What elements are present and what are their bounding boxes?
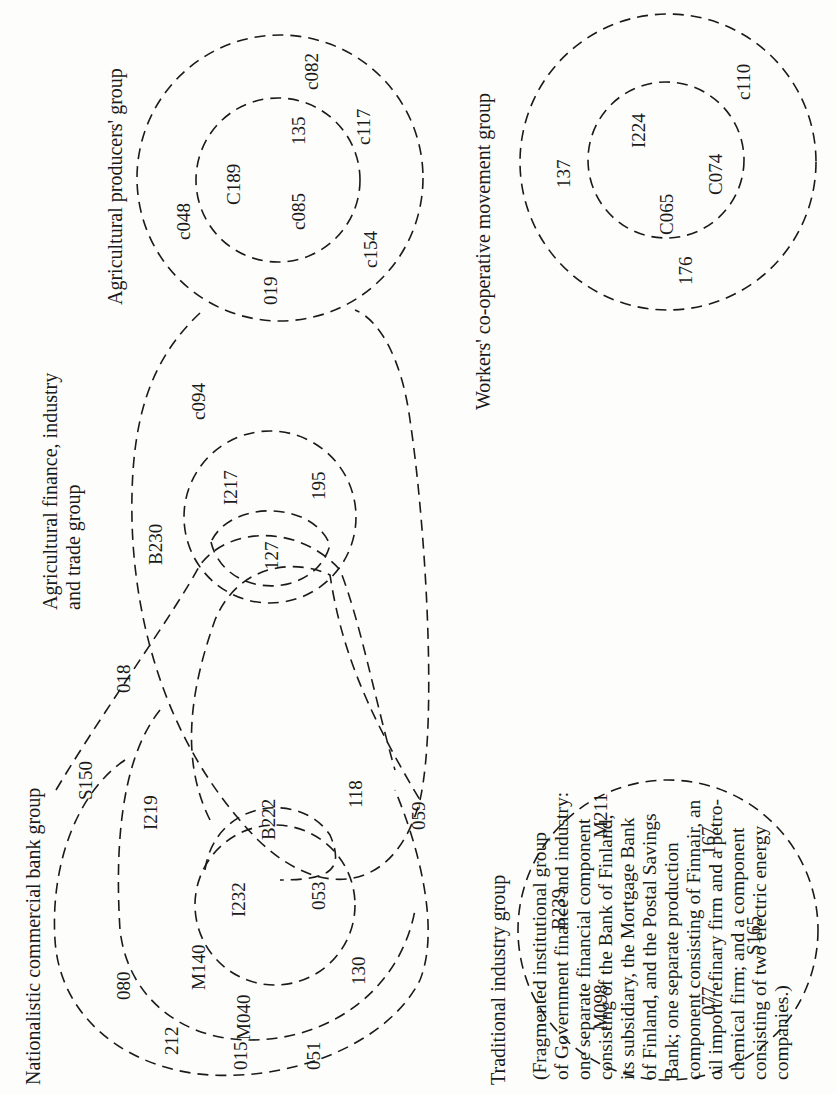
agri-finance-title-line1: Agricultural finance, industry xyxy=(39,373,62,610)
node-137: 137 xyxy=(553,160,574,189)
node-c048: c048 xyxy=(173,203,194,240)
agri-finance-title-line2: and trade group xyxy=(62,484,85,610)
svg-text:oil import/refinary firm and a: oil import/refinary firm and a petro- xyxy=(705,799,726,1080)
svg-text:its subsidiary, the Mortgage B: its subsidiary, the Mortgage Bank xyxy=(617,817,638,1080)
node-080: 080 xyxy=(113,972,134,1001)
node-C065: C065 xyxy=(656,194,677,235)
node-S150: S150 xyxy=(75,761,96,800)
node-130: 130 xyxy=(348,957,369,986)
node-059: 059 xyxy=(408,802,429,831)
svg-text:one separate financial compone: one separate financial component xyxy=(573,818,594,1080)
node-019: 019 xyxy=(260,277,281,306)
svg-text:Bank; one separate production: Bank; one separate production xyxy=(661,842,682,1080)
node-c094: c094 xyxy=(188,383,209,420)
svg-text:chemical firm; and a component: chemical firm; and a component xyxy=(727,827,748,1080)
svg-text:consisting of two electric ene: consisting of two electric energy xyxy=(749,826,770,1080)
node-M040: M040 xyxy=(233,995,254,1040)
traditional-industry-title: Traditional industry group xyxy=(487,875,510,1085)
node-195: 195 xyxy=(308,472,329,501)
loop-b222-to-127 xyxy=(191,567,420,820)
fragmented-group-note: (Fragmented institutional group of Gover… xyxy=(529,792,793,1080)
loop-018-to-127 xyxy=(56,536,395,790)
agri-producers-inner-circle xyxy=(196,98,360,262)
node-051: 051 xyxy=(303,1042,324,1071)
nationalistic-inner-circle xyxy=(195,825,355,985)
agri-producers-title: Agricultural producers' group xyxy=(104,68,127,305)
node-176: 176 xyxy=(675,257,696,286)
agri-finance-outer-loop xyxy=(132,310,429,879)
node-B230: B230 xyxy=(145,524,166,565)
node-c085: c085 xyxy=(288,193,309,230)
node-I232: I232 xyxy=(228,882,249,917)
node-127: 127 xyxy=(261,542,282,571)
node-135: 135 xyxy=(288,117,309,146)
node-I224: I224 xyxy=(628,113,649,148)
node-C189: C189 xyxy=(223,164,244,205)
svg-text:consisting of the Bank of Finl: consisting of the Bank of Finland, xyxy=(595,815,616,1080)
node-C074: C074 xyxy=(705,153,726,195)
node-c154: c154 xyxy=(360,231,381,268)
node-053: 053 xyxy=(308,882,329,911)
svg-text:component consisting of Finnai: component consisting of Finnair, an xyxy=(683,799,704,1080)
svg-text:companies.): companies.) xyxy=(771,985,793,1080)
node-I219: I219 xyxy=(140,795,161,830)
workers-cooperative-title: Workers' co-operative movement group xyxy=(472,93,495,410)
svg-text:of Government finance and indu: of Government finance and industry: xyxy=(551,792,572,1080)
group-diagram: Agricultural producers' group Agricultur… xyxy=(0,0,837,1094)
node-c117: c117 xyxy=(353,109,374,145)
node-I217: I217 xyxy=(220,470,241,505)
node-118: 118 xyxy=(345,780,366,808)
node-212: 212 xyxy=(161,1027,182,1056)
node-c110: c110 xyxy=(733,64,754,100)
nationalistic-middle-loop xyxy=(118,710,415,1040)
nationalistic-bank-title: Nationalistic commercial bank group xyxy=(22,788,45,1085)
node-c082: c082 xyxy=(301,53,322,90)
node-B222: B222 xyxy=(258,799,279,840)
node-M140: M140 xyxy=(188,945,209,990)
node-015: 015 xyxy=(230,1042,251,1071)
diagram-page: Agricultural producers' group Agricultur… xyxy=(0,0,837,1094)
svg-text:(Fragmented institutional grou: (Fragmented institutional group xyxy=(529,832,551,1080)
svg-text:of Finland, and the Postal Sav: of Finland, and the Postal Savings xyxy=(639,814,660,1081)
node-018: 018 xyxy=(113,665,134,694)
